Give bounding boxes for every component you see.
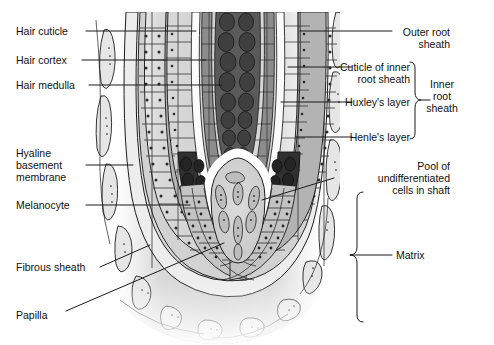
brace-label-matrix: Matrix [396,249,425,261]
left-label-hyaline-basement-membrane: Hyaline basement membrane [16,147,66,184]
right-label-pool-of-undifferentiated-cells: Pool of undifferentiated cells in shaft [378,160,450,197]
brace-label-inner-root-sheath: Inner root sheath [414,78,470,115]
right-label-cuticle-of-inner-root-sheath: Cuticle of inner root sheath [340,61,410,85]
right-label-outer-root-sheath: Outer root sheath [403,26,450,50]
left-label-hair-cuticle: Hair cuticle [16,25,68,37]
right-label-henles-layer: Henle's layer [350,131,410,143]
left-label-papilla: Papilla [16,309,48,321]
left-label-hair-cortex: Hair cortex [16,54,67,66]
left-label-hair-medulla: Hair medulla [16,79,75,91]
left-label-melanocyte: Melanocyte [16,199,70,211]
left-label-fibrous-sheath: Fibrous sheath [16,261,85,273]
right-label-huxleys-layer: Huxley's layer [345,96,410,108]
